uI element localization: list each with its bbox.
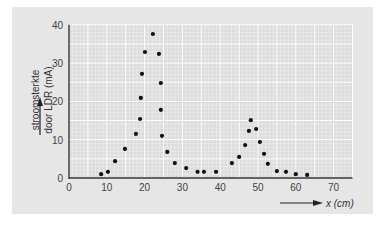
- data-point: [184, 166, 188, 170]
- x-tick-label: 50: [252, 182, 264, 193]
- x-tick-label: 20: [139, 182, 151, 193]
- data-point: [305, 173, 309, 177]
- data-point: [243, 143, 247, 147]
- x-axis-label: x (cm): [325, 198, 354, 209]
- x-tick-label: 60: [290, 182, 302, 193]
- data-point: [159, 108, 163, 112]
- data-point: [254, 127, 258, 131]
- data-point: [159, 81, 163, 85]
- data-point: [106, 170, 110, 174]
- x-tick-label: 70: [328, 182, 340, 193]
- x-tick-label: 40: [215, 182, 227, 193]
- data-point: [173, 161, 177, 165]
- grid: [69, 25, 353, 178]
- data-point: [247, 129, 251, 133]
- data-point: [237, 155, 241, 159]
- data-point: [157, 52, 161, 56]
- data-point: [113, 159, 117, 163]
- data-point: [143, 50, 147, 54]
- data-point: [165, 150, 169, 154]
- data-point: [262, 152, 266, 156]
- y-tick-label: 40: [52, 20, 64, 31]
- data-point: [138, 117, 142, 121]
- data-point: [258, 140, 262, 144]
- data-point: [134, 132, 138, 136]
- data-point: [123, 147, 127, 151]
- x-tick-label: 0: [66, 182, 72, 193]
- y-label-line2: door LDR (mA): [43, 66, 54, 133]
- data-point: [249, 118, 253, 122]
- data-point: [230, 161, 234, 165]
- data-point: [214, 170, 218, 174]
- data-point: [139, 96, 143, 100]
- scatter-chart: 010203040506070 010203040 stroomsterkte …: [0, 0, 382, 226]
- x-tick-label: 10: [101, 182, 113, 193]
- data-point: [140, 72, 144, 76]
- data-point: [151, 32, 155, 36]
- x-axis-arrow-icon: [280, 200, 323, 206]
- data-point: [275, 169, 279, 173]
- data-point: [284, 170, 288, 174]
- data-point: [202, 170, 206, 174]
- data-point: [99, 172, 103, 176]
- x-tick-label: 30: [177, 182, 189, 193]
- data-point: [160, 134, 164, 138]
- data-point: [195, 170, 199, 174]
- y-tick-label: 0: [57, 173, 63, 184]
- y-tick-label: 10: [52, 135, 64, 146]
- x-tick-labels: 010203040506070: [66, 182, 339, 193]
- y-axis-label: stroomsterkte door LDR (mA): [30, 66, 54, 133]
- data-point: [266, 162, 270, 166]
- data-point: [294, 172, 298, 176]
